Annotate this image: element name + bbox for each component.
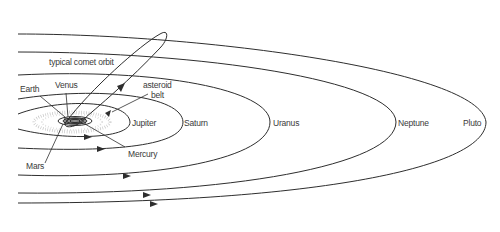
label-neptune: Neptune (398, 118, 429, 128)
orbit-saturn (18, 93, 183, 149)
arrow-uranus-icon (123, 173, 131, 179)
arrow-jupiter-icon (84, 134, 92, 140)
label-mars: Mars (26, 161, 44, 171)
label-mercury: Mercury (128, 149, 158, 159)
arrow-saturn-icon (97, 146, 105, 152)
arrow-neptune-icon (143, 192, 151, 198)
arrow-comet-icon (117, 83, 125, 92)
label-jupiter: Jupiter (132, 118, 156, 128)
label-venus: Venus (55, 80, 78, 90)
label-comet-orbit: typical comet orbit (49, 57, 115, 67)
arrow-pluto-icon (150, 201, 158, 207)
label-earth: Earth (20, 84, 40, 94)
label-uranus: Uranus (273, 118, 299, 128)
label-asteroid-belt-line2: belt (151, 90, 165, 100)
label-saturn: Saturn (184, 118, 208, 128)
label-asteroid-belt-line1: asteroid (143, 80, 172, 90)
label-pluto: Pluto (463, 118, 482, 128)
solar-system-diagram: typical comet orbit Earth Venus asteroid… (0, 0, 500, 232)
